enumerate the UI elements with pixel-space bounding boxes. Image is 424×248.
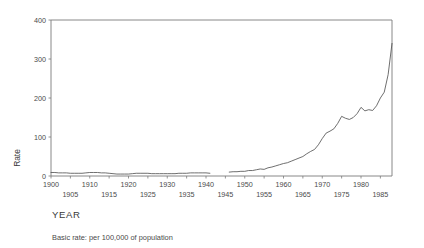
- x-tick-label-upper: 1960: [276, 180, 292, 189]
- x-tick-label-upper: 1970: [314, 180, 330, 189]
- x-tick-label-lower: 1935: [179, 190, 195, 199]
- x-tick-label-upper: 1900: [43, 180, 59, 189]
- x-tick-label-lower: 1985: [372, 190, 388, 199]
- x-tick-label-upper: 1920: [121, 180, 137, 189]
- x-tick-label-lower: 1905: [62, 190, 78, 199]
- y-tick-label: 400: [34, 16, 46, 25]
- y-axis-title: Rate: [12, 149, 22, 167]
- x-tick-label-upper: 1950: [237, 180, 253, 189]
- x-tick-label-lower: 1955: [256, 190, 272, 199]
- x-tick-label-upper: 1930: [159, 180, 175, 189]
- y-tick-label: 100: [34, 133, 46, 142]
- x-tick-label-lower: 1965: [295, 190, 311, 199]
- y-tick-label: 200: [34, 94, 46, 103]
- x-axis-title: YEAR: [52, 209, 81, 220]
- x-tick-label-lower: 1915: [101, 190, 117, 199]
- y-tick-label: 300: [34, 55, 46, 64]
- x-tick-label-lower: 1945: [217, 190, 233, 199]
- rate-over-time-chart: 0100200300400 19001910192019301940195019…: [0, 0, 424, 248]
- x-tick-label-lower: 1975: [334, 190, 350, 199]
- x-tick-label-upper: 1910: [82, 180, 98, 189]
- chart-footnote: Basic rate: per 100,000 of population: [52, 233, 173, 242]
- x-tick-label-upper: 1980: [353, 180, 369, 189]
- x-tick-label-upper: 1940: [198, 180, 214, 189]
- x-tick-label-lower: 1925: [140, 190, 156, 199]
